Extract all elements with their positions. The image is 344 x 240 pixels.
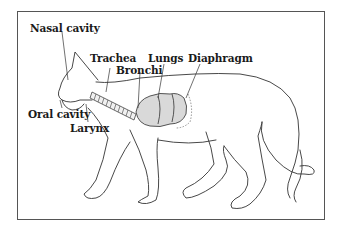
trachea-illustration — [90, 92, 136, 120]
cat-back-outline — [96, 74, 299, 199]
cat-tail-outline — [294, 150, 302, 202]
label-oral-cavity: Oral cavity — [28, 108, 90, 120]
lungs-illustration — [136, 93, 187, 126]
cat-hind-leg-2 — [224, 122, 266, 209]
cat-hind-leg-3 — [261, 122, 314, 175]
label-diaphragm: Diaphragm — [188, 52, 253, 64]
label-larynx: Larynx — [70, 122, 109, 134]
cat-front-leg-2 — [130, 130, 159, 204]
label-lungs: Lungs — [148, 52, 183, 64]
label-trachea: Trachea — [90, 52, 136, 64]
cat-belly-outline — [158, 140, 216, 143]
label-bronchi: Bronchi — [116, 64, 162, 76]
label-nasal-cavity: Nasal cavity — [30, 22, 100, 34]
